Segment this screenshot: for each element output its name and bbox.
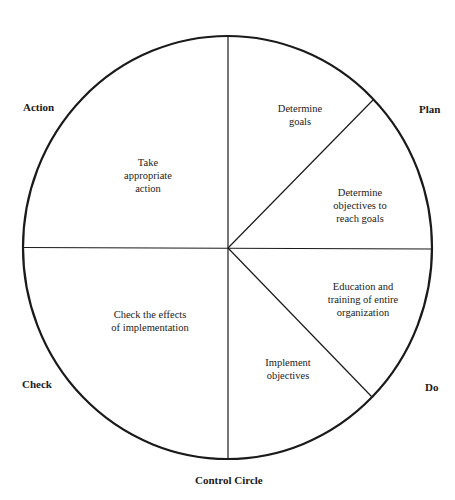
segment-implement-objectives: Implement objectives (248, 356, 328, 382)
segment-determine-objectives: Determine objectives to reach goals (315, 186, 405, 225)
segment-check-effects: Check the effects of implementation (95, 308, 205, 334)
segment-education-training: Education and training of entire organiz… (313, 280, 413, 319)
phase-label-do: Do (425, 381, 438, 393)
diagram-title: Control Circle (195, 474, 263, 486)
divider-horizontal (23, 248, 432, 250)
phase-label-action: Action (23, 101, 54, 113)
circle-graphic (0, 0, 455, 500)
page-top-fragment (216, 0, 222, 2)
control-circle-diagram: Action Plan Check Do Control Circle Dete… (0, 0, 455, 500)
segment-take-action: Take appropriate action (108, 156, 188, 195)
segment-determine-goals: Determine goals (255, 102, 345, 128)
phase-label-plan: Plan (419, 103, 440, 115)
phase-label-check: Check (22, 378, 52, 390)
